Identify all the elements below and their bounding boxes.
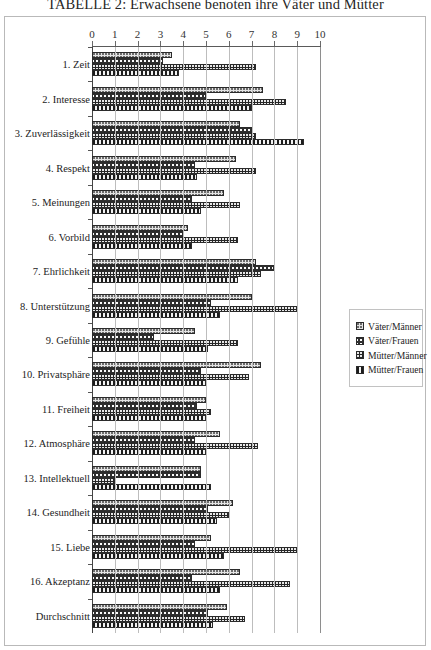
- x-tick-label: 8: [272, 28, 278, 40]
- x-tick-mark: [92, 41, 93, 46]
- legend-item: Väter/Männer: [356, 321, 417, 332]
- x-tick-mark: [297, 41, 298, 46]
- bar: [92, 449, 206, 455]
- gridline: [160, 47, 161, 633]
- category-tick-mark: [88, 599, 92, 600]
- gridline: [274, 47, 275, 633]
- x-tick-label: 3: [158, 28, 164, 40]
- x-tick-label: 9: [294, 28, 300, 40]
- x-tick-mark: [320, 41, 321, 46]
- gridline: [183, 47, 184, 633]
- bar: [92, 174, 197, 180]
- x-tick-label: 2: [135, 28, 141, 40]
- category-tick-mark: [88, 323, 92, 324]
- legend-item: Mütter/Frauen: [356, 364, 417, 375]
- category-label: 6. Vorbild: [6, 231, 90, 242]
- gridline: [252, 47, 253, 633]
- category-label: 1. Zeit: [6, 59, 90, 70]
- category-label: 8. Unterstützung: [6, 300, 90, 311]
- category-tick-mark: [88, 392, 92, 393]
- light-dotted-swatch-icon: [356, 322, 364, 330]
- x-tick-mark: [206, 41, 207, 46]
- x-tick-label: 10: [315, 28, 326, 40]
- x-tick-mark: [229, 41, 230, 46]
- bar: [92, 70, 179, 76]
- category-label: 12. Atmosphäre: [6, 438, 90, 449]
- bar: [92, 415, 206, 421]
- category-label: 14. Gesundheit: [6, 507, 90, 518]
- bar: [92, 312, 220, 318]
- bar: [92, 553, 224, 559]
- category-tick-mark: [88, 426, 92, 427]
- category-tick-mark: [88, 185, 92, 186]
- gridline: [115, 47, 116, 633]
- x-tick-label: 0: [89, 28, 95, 40]
- category-label: 7. Ehrlichkeit: [6, 266, 90, 277]
- category-tick-mark: [88, 47, 92, 48]
- wavy-line-swatch-icon: [356, 337, 364, 345]
- category-labels: 1. Zeit2. Interesse3. Zuverlässigkeit4. …: [6, 47, 90, 633]
- x-tick-mark: [274, 41, 275, 46]
- category-tick-mark: [88, 495, 92, 496]
- bar: [92, 243, 192, 249]
- page-title: TABELLE 2: Erwachsene benoten ihre Väter…: [0, 0, 431, 16]
- category-label: 13. Intellektuell: [6, 472, 90, 483]
- gridline: [138, 47, 139, 633]
- category-label: 11. Freiheit: [6, 403, 90, 414]
- legend-item-label: Mütter/Männer: [368, 350, 427, 361]
- vertical-stripe-swatch-icon: [356, 366, 364, 374]
- x-tick-mark: [138, 41, 139, 46]
- category-tick-mark: [88, 357, 92, 358]
- legend-item-label: Väter/Frauen: [368, 335, 419, 346]
- x-tick-label: 6: [226, 28, 232, 40]
- x-tick-label: 5: [203, 28, 209, 40]
- category-tick-mark: [88, 254, 92, 255]
- x-tick-label: 1: [112, 28, 118, 40]
- category-tick-mark: [88, 219, 92, 220]
- legend-item-label: Väter/Männer: [368, 321, 422, 332]
- category-label: 2. Interesse: [6, 93, 90, 104]
- category-label: 3. Zuverlässigkeit: [6, 128, 90, 139]
- gridline: [320, 47, 321, 633]
- gridline: [206, 47, 207, 633]
- category-label: Durchschnitt: [6, 610, 90, 621]
- bar: [92, 484, 211, 490]
- bar: [92, 105, 252, 111]
- gridline: [229, 47, 230, 633]
- legend-item-label: Mütter/Frauen: [368, 364, 423, 375]
- x-tick-mark: [115, 41, 116, 46]
- bar: [92, 346, 208, 352]
- category-tick-mark: [88, 461, 92, 462]
- legend-item: Mütter/Männer: [356, 350, 417, 361]
- category-label: 4. Respekt: [6, 162, 90, 173]
- category-tick-mark: [88, 288, 92, 289]
- category-label: 5. Meinungen: [6, 197, 90, 208]
- x-tick-mark: [252, 41, 253, 46]
- x-tick-mark: [160, 41, 161, 46]
- dark-speckled-swatch-icon: [356, 351, 364, 359]
- bar: [92, 208, 201, 214]
- category-tick-mark: [88, 116, 92, 117]
- chart-page: TABELLE 2: Erwachsene benoten ihre Väter…: [0, 0, 431, 650]
- bar: [92, 622, 213, 628]
- x-tick-label: 4: [180, 28, 186, 40]
- category-tick-mark: [88, 564, 92, 565]
- gridline: [297, 47, 298, 633]
- category-label: 10. Privatsphäre: [6, 369, 90, 380]
- bar: [92, 587, 220, 593]
- legend-item: Väter/Frauen: [356, 335, 417, 346]
- category-tick-mark: [88, 81, 92, 82]
- bar: [92, 518, 217, 524]
- category-label: 15. Liebe: [6, 541, 90, 552]
- x-tick-label: 7: [249, 28, 255, 40]
- x-tick-mark: [183, 41, 184, 46]
- category-tick-mark: [88, 150, 92, 151]
- chart-legend: Väter/MännerVäter/FrauenMütter/MännerMüt…: [349, 309, 423, 387]
- bar: [92, 139, 304, 145]
- category-label: 16. Akzeptanz: [6, 576, 90, 587]
- category-tick-mark: [88, 530, 92, 531]
- category-label: 9. Gefühle: [6, 335, 90, 346]
- bar: [92, 380, 206, 386]
